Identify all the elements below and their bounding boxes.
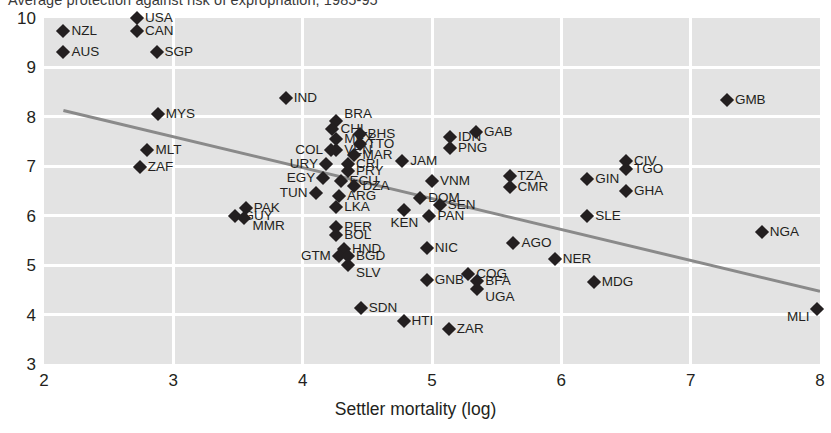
data-point-label: SDN xyxy=(369,301,398,315)
data-point-label: URY xyxy=(290,157,318,171)
data-point-label: JAM xyxy=(410,154,437,168)
data-point-label: BRA xyxy=(344,107,372,121)
data-point-label: LKA xyxy=(344,200,370,214)
data-point-label: ZAF xyxy=(148,160,174,174)
data-point-label: GAB xyxy=(484,125,513,139)
x-axis-tick-label: 4 xyxy=(283,372,323,389)
data-point-label: GMB xyxy=(735,93,766,107)
data-point-label: BGD xyxy=(356,249,385,263)
data-point-label: AGO xyxy=(521,236,551,250)
data-point-label: ZAR xyxy=(457,322,484,336)
x-axis-tick-label: 5 xyxy=(412,372,452,389)
data-point-label: NER xyxy=(563,252,592,266)
data-point-label: VNM xyxy=(440,174,470,188)
data-point-label: SLV xyxy=(356,266,381,280)
y-axis-tick-label: 6 xyxy=(0,208,36,225)
chart-title: Average protection against risk of expro… xyxy=(8,0,378,8)
y-axis-tick-label: 9 xyxy=(0,59,36,76)
data-point-label: CAN xyxy=(145,24,174,38)
data-point-label: TGO xyxy=(634,162,663,176)
data-point-label: CMR xyxy=(518,180,549,194)
data-point-label: SGP xyxy=(165,45,194,59)
data-point-label: MLI xyxy=(787,310,810,324)
data-point-label: MYS xyxy=(166,107,195,121)
data-point-label: NZL xyxy=(71,24,97,38)
y-axis-tick-label: 4 xyxy=(0,307,36,324)
data-point-label: BFA xyxy=(485,274,511,288)
data-point-label: MLT xyxy=(155,143,181,157)
x-axis-tick-label: 2 xyxy=(24,372,64,389)
data-point-label: GIN xyxy=(595,172,619,186)
data-point-label: HTI xyxy=(412,314,434,328)
y-axis-tick-label: 8 xyxy=(0,109,36,126)
data-point-label: COL xyxy=(295,143,323,157)
x-axis-tick-label: 8 xyxy=(800,372,831,389)
y-axis-tick-label: 10 xyxy=(0,10,36,27)
data-point-label: SLE xyxy=(595,209,621,223)
data-point-label: AUS xyxy=(71,45,99,59)
data-point-label: KEN xyxy=(391,216,419,230)
x-axis-tick-label: 6 xyxy=(541,372,581,389)
scatter-chart-figure: Average protection against risk of expro… xyxy=(0,0,831,433)
gridline-vertical xyxy=(689,18,692,364)
gridline-vertical xyxy=(172,18,175,364)
data-point-label: PAN xyxy=(437,209,464,223)
data-point-label: GNB xyxy=(435,273,464,287)
y-axis-tick-label: 5 xyxy=(0,257,36,274)
data-point-label: MDG xyxy=(602,275,634,289)
y-axis-tick-label: 7 xyxy=(0,158,36,175)
data-point-label: GTM xyxy=(301,249,331,263)
data-point-label: GHA xyxy=(634,184,663,198)
data-point-label: IND xyxy=(294,91,317,105)
x-axis-title: Settler mortality (log) xyxy=(0,399,831,420)
x-axis-tick-label: 7 xyxy=(671,372,711,389)
x-axis-tick-label: 3 xyxy=(153,372,193,389)
data-point-label: NGA xyxy=(770,225,799,239)
gridline-vertical xyxy=(560,18,563,364)
data-point-label: BOL xyxy=(344,228,371,242)
data-point-label: MMR xyxy=(252,219,284,233)
y-axis-tick-label: 3 xyxy=(0,356,36,373)
data-point-label: UGA xyxy=(485,290,514,304)
data-point-label: EGY xyxy=(287,171,316,185)
data-point-label: NIC xyxy=(435,241,458,255)
data-point-label: PNG xyxy=(458,141,487,155)
data-point-label: TUN xyxy=(280,186,308,200)
